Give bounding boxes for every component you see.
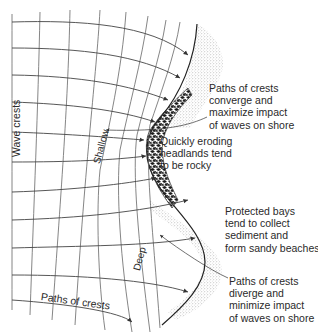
headlands-annotation: Quickly eroding headlands tend to be roc…: [160, 135, 232, 172]
converge-annotation: Paths of crests converge and maximize im…: [209, 82, 294, 131]
wave-crests-label: Wave crests: [10, 100, 22, 157]
bays-annotation: Protected bays tend to collect sediment …: [225, 205, 318, 254]
crest-path-lines: [12, 22, 195, 322]
diverge-annotation: Paths of crests diverge and minimize imp…: [229, 275, 314, 324]
